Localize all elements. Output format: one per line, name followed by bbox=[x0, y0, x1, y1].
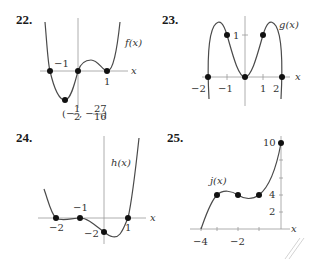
problem-number: 25. bbox=[167, 130, 183, 145]
point bbox=[224, 32, 230, 38]
scan-mark bbox=[289, 238, 304, 259]
svg-text:−1: −1 bbox=[54, 58, 69, 69]
svg-text:−1: −1 bbox=[73, 202, 88, 213]
point bbox=[62, 97, 68, 103]
svg-text:1: 1 bbox=[260, 83, 266, 94]
graph-24: 24. −2 −1 −2 1 h(x) x bbox=[16, 130, 156, 244]
problem-number: 24. bbox=[16, 130, 32, 145]
point bbox=[53, 215, 59, 221]
point bbox=[101, 229, 107, 235]
point bbox=[214, 192, 220, 198]
svg-text:−2: −2 bbox=[49, 222, 64, 233]
problem-number: 22. bbox=[16, 12, 32, 27]
svg-text:−2: −2 bbox=[230, 236, 245, 247]
function-label: g(x) bbox=[279, 19, 299, 30]
point bbox=[104, 68, 110, 74]
graph-23: 23. −2 −1 1 2 1 g(x) x bbox=[162, 12, 301, 106]
svg-text:−4: −4 bbox=[193, 236, 208, 247]
point bbox=[242, 74, 248, 80]
problem-number: 23. bbox=[162, 12, 178, 27]
svg-text:, −: , − bbox=[79, 108, 94, 119]
svg-text:2: 2 bbox=[273, 83, 279, 94]
axis-label: x bbox=[295, 71, 301, 82]
graph-25: 25. −4 −2 2 4 10 j(x) x bbox=[167, 130, 304, 259]
svg-text:(−: (− bbox=[62, 108, 74, 119]
point bbox=[278, 140, 284, 146]
svg-text:2: 2 bbox=[269, 206, 275, 217]
axis-label: x bbox=[150, 212, 156, 223]
function-label: f(x) bbox=[124, 37, 142, 48]
svg-text:1: 1 bbox=[104, 76, 110, 87]
function-label: h(x) bbox=[111, 157, 131, 168]
svg-text:1: 1 bbox=[233, 30, 239, 41]
graph-22: 22. −1 1 f(x) x (− 1 2 , − 27 16 ) bbox=[16, 12, 142, 122]
scan-mark bbox=[285, 238, 300, 259]
svg-text:−2: −2 bbox=[191, 83, 206, 94]
point bbox=[77, 215, 83, 221]
svg-text:−2: −2 bbox=[84, 228, 99, 239]
point bbox=[260, 32, 266, 38]
point bbox=[235, 192, 241, 198]
axis-label: x bbox=[131, 65, 137, 76]
point bbox=[47, 68, 53, 74]
point bbox=[75, 68, 81, 74]
svg-text:4: 4 bbox=[269, 189, 275, 200]
point bbox=[205, 74, 211, 80]
svg-text:): ) bbox=[103, 108, 107, 119]
point bbox=[125, 215, 131, 221]
svg-text:10: 10 bbox=[263, 137, 276, 148]
svg-text:−1: −1 bbox=[218, 83, 233, 94]
svg-text:1: 1 bbox=[125, 222, 131, 233]
function-label: j(x) bbox=[208, 175, 227, 186]
figure-canvas: 22. −1 1 f(x) x (− 1 2 , − 27 16 ) 23. bbox=[0, 0, 316, 268]
point-label: (− 1 2 , − 27 16 ) bbox=[62, 103, 107, 122]
point bbox=[256, 192, 262, 198]
axis-label: x bbox=[291, 223, 297, 234]
point bbox=[279, 74, 285, 80]
